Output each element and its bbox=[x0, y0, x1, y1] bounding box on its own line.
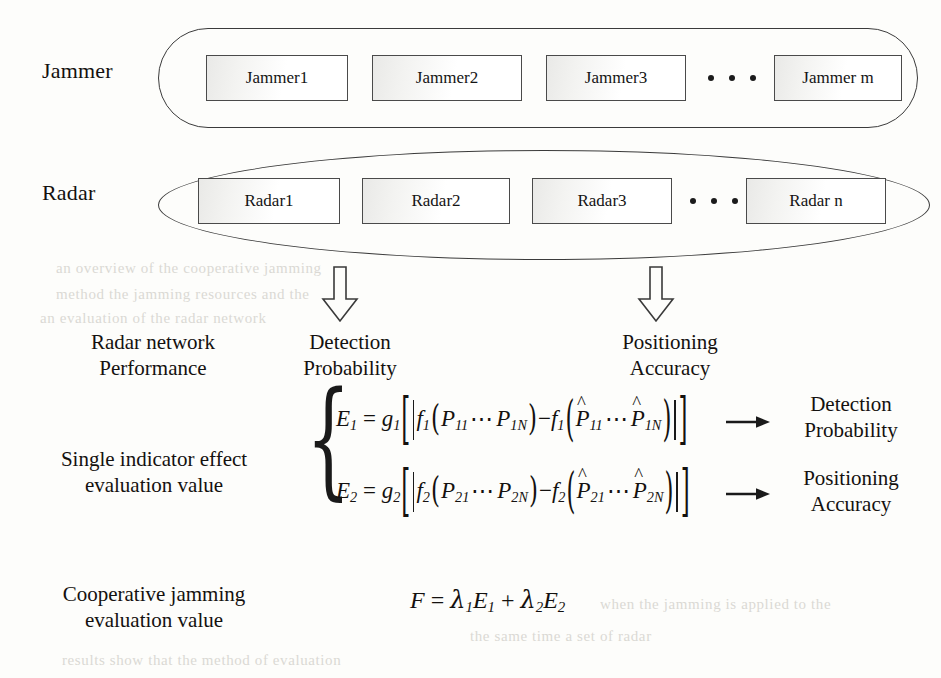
eq2-lhs: E bbox=[336, 478, 350, 503]
bleed-text: method the jamming resources and the bbox=[56, 286, 310, 303]
mid-header-positioning-line2: Accuracy bbox=[570, 356, 770, 382]
jammer-node-3[interactable]: Jammer3 bbox=[546, 55, 686, 101]
jammer-node-1[interactable]: Jammer1 bbox=[206, 55, 348, 101]
label-coop-line1: Cooperative jamming bbox=[18, 582, 290, 608]
equation-e1: E1 = g1[f1(P11⋯P1N)−f1(^P11⋯^P1N)] bbox=[336, 400, 689, 440]
radar-node-1[interactable]: Radar1 bbox=[198, 178, 340, 224]
eq2-equals: = bbox=[363, 478, 376, 503]
radar-node-2[interactable]: Radar2 bbox=[362, 178, 510, 224]
down-block-arrow-icon bbox=[636, 266, 676, 328]
down-block-arrow-icon bbox=[320, 266, 360, 328]
right-label-detection: Detection Probability bbox=[766, 392, 936, 443]
label-perf-line2: Performance bbox=[18, 356, 288, 382]
mid-header-positioning: Positioning Accuracy bbox=[570, 330, 770, 381]
equation-group: { E1 = g1[f1(P11⋯P1N)−f1(^P11⋯^P1N)] E2 … bbox=[306, 388, 776, 538]
radar-node-n[interactable]: Radar n bbox=[746, 178, 886, 224]
label-single-line2: evaluation value bbox=[8, 473, 300, 499]
eq1-lhs: E bbox=[336, 406, 350, 431]
right-label-detection-line2: Probability bbox=[766, 418, 936, 444]
bleed-text: when the jamming is applied to the bbox=[600, 596, 831, 613]
jammer-ellipsis bbox=[708, 55, 756, 101]
right-label-positioning-line1: Positioning bbox=[766, 466, 936, 492]
jammer-node-m[interactable]: Jammer m bbox=[774, 55, 902, 101]
mid-header-positioning-line1: Positioning bbox=[570, 330, 770, 356]
label-perf-line1: Radar network bbox=[18, 330, 288, 356]
label-single-line1: Single indicator effect bbox=[8, 447, 300, 473]
label-single-indicator: Single indicator effect evaluation value bbox=[8, 447, 300, 498]
bleed-text: an evaluation of the radar network bbox=[40, 310, 267, 327]
diagram-canvas: an overview of the cooperative jamming m… bbox=[0, 0, 941, 678]
bleed-text: the same time a set of radar bbox=[470, 628, 652, 645]
eq2-g: g bbox=[382, 478, 394, 503]
eq1-equals: = bbox=[363, 406, 376, 431]
right-label-detection-line1: Detection bbox=[766, 392, 936, 418]
radar-ellipsis bbox=[690, 178, 738, 224]
right-label-positioning-line2: Accuracy bbox=[766, 492, 936, 518]
label-radar-network-performance: Radar network Performance bbox=[18, 330, 288, 381]
radar-node-3[interactable]: Radar3 bbox=[532, 178, 672, 224]
right-label-positioning: Positioning Accuracy bbox=[766, 466, 936, 517]
jammer-node-2[interactable]: Jammer2 bbox=[372, 55, 522, 101]
equation-e2: E2 = g2[f2(P21⋯P2N)−f2(^P21⋯^P2N)] bbox=[336, 472, 691, 512]
eq1-g: g bbox=[382, 406, 394, 431]
row-label-jammer: Jammer bbox=[42, 58, 113, 84]
bleed-text: results show that the method of evaluati… bbox=[62, 652, 341, 669]
label-cooperative-jamming: Cooperative jamming evaluation value bbox=[18, 582, 290, 633]
label-coop-line2: evaluation value bbox=[18, 608, 290, 634]
equation-final-F: F = λ1E1 + λ2E2 bbox=[410, 586, 565, 616]
row-label-radar: Radar bbox=[42, 180, 96, 206]
bleed-text: an overview of the cooperative jamming bbox=[56, 260, 322, 277]
